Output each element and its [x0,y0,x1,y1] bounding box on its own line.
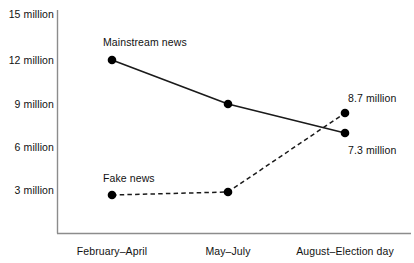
plot-area [0,0,414,263]
data-point-fake-february-april [108,191,117,200]
chart-container: 15 million 12 million 9 million 6 millio… [0,0,414,263]
data-point-mainstream-february-april [108,56,117,65]
data-point-fake-may-july [224,188,233,197]
data-point-mainstream-may-july [224,100,233,109]
data-point-fake-august-election-day [341,109,350,118]
data-point-mainstream-august-election-day [341,129,350,138]
series-line-mainstream-news [112,60,345,133]
series-line-fake-news [112,113,345,195]
